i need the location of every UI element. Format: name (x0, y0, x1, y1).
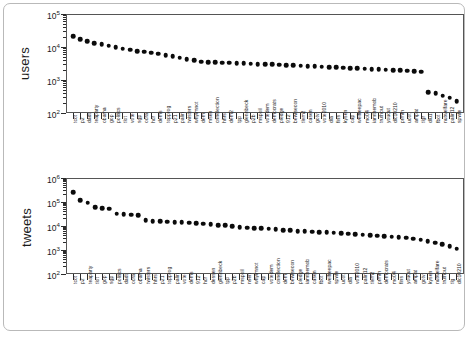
x-tick-label: twisters (145, 267, 151, 284)
x-tick-label: spwfe (333, 271, 339, 284)
x-tick-label: tpp (224, 277, 230, 284)
x-tick-label: dem (282, 274, 288, 284)
data-point (284, 63, 289, 68)
data-point (213, 60, 218, 65)
x-tick-label: hhrs (152, 274, 158, 284)
y-minor-tick (63, 231, 66, 232)
data-point (331, 231, 336, 236)
y-minor-tick (63, 203, 66, 204)
x-tick-label: ucot (406, 113, 412, 123)
y-minor-tick (63, 93, 66, 94)
data-point (440, 242, 445, 247)
x-tick-label: mspoil (257, 108, 263, 123)
data-point (248, 61, 253, 66)
data-point (389, 234, 394, 239)
data-point (194, 221, 199, 226)
y-minor-tick (63, 229, 66, 230)
data-point (384, 67, 389, 72)
data-point (71, 34, 76, 39)
y-tick-label: 104 (6, 42, 60, 54)
data-point (199, 59, 204, 64)
data-point (266, 227, 271, 232)
chart-panel-users: users 102103104105 tcotp2dadtteapartyoba… (0, 4, 474, 170)
data-point (151, 219, 156, 224)
y-minor-tick (63, 70, 66, 71)
y-minor-tick (63, 179, 66, 180)
plot-area-tweets (66, 178, 464, 274)
data-point (346, 231, 351, 236)
x-tick-label: youcut (405, 269, 411, 284)
data-point (353, 232, 358, 237)
y-minor-tick (63, 204, 66, 205)
x-tick-label: gop (108, 115, 114, 124)
x-tick-label: truthout (378, 106, 384, 123)
x-tick-label: msen (207, 111, 213, 123)
y-minor-tick (63, 253, 66, 254)
data-point (234, 61, 239, 66)
x-tick-label: iamthemob (304, 259, 310, 284)
x-tick-label: mo04 (364, 110, 370, 123)
data-point (334, 65, 339, 70)
x-tick-label: dems (157, 111, 163, 123)
y-minor-tick (63, 57, 66, 58)
x-tick-label: ucot (340, 274, 346, 284)
data-point (341, 65, 346, 70)
x-tick-label: iamthemob (371, 98, 377, 123)
y-minor-tick (63, 259, 66, 260)
data-point (216, 223, 221, 228)
data-point (375, 233, 380, 238)
x-tick-label: topprog (166, 267, 172, 284)
data-point (368, 233, 373, 238)
data-point (291, 63, 296, 68)
y-minor-tick (63, 97, 66, 98)
data-point (418, 237, 423, 242)
x-tick-label: glennbeck (217, 261, 223, 284)
data-point (85, 39, 90, 44)
data-point (327, 65, 332, 70)
x-tick-label: whyimnot (193, 101, 199, 123)
x-tick-label: fins (398, 276, 404, 284)
y-minor-tick (63, 180, 66, 181)
data-point (455, 99, 460, 104)
x-tick-label: democrats (383, 260, 389, 284)
x-tick-label: palin (179, 112, 185, 123)
y-major-tick (61, 113, 66, 114)
x-tick-label: tlg (449, 279, 455, 284)
data-point (426, 90, 431, 95)
x-tick-label: dadt (86, 113, 92, 123)
x-tick-label: 912 (285, 115, 291, 124)
x-tick-label: kysen (342, 110, 348, 123)
data-point (241, 61, 246, 66)
y-minor-tick (63, 52, 66, 53)
x-tick-label: tlot (122, 116, 128, 123)
x-tick-label: votedem (264, 103, 270, 123)
data-point (136, 213, 141, 218)
data-point (324, 230, 329, 235)
data-point (208, 222, 213, 227)
data-point (412, 69, 417, 74)
y-minor-tick (63, 214, 66, 215)
x-tick-label: tlem2 (369, 272, 375, 284)
data-point (382, 234, 387, 239)
data-point (447, 95, 452, 100)
x-tick-label: vote2010 (321, 102, 327, 123)
x-tick-label: truthout (441, 267, 447, 284)
x-tick-label: mspoil (239, 269, 245, 284)
y-minor-tick (63, 190, 66, 191)
data-point (142, 49, 147, 54)
x-tick-label: gotv (420, 274, 426, 284)
x-tick-label: dlu1 (427, 113, 433, 123)
x-tick-label: tcot (72, 276, 78, 284)
x-tick-label: obama (101, 107, 107, 123)
y-tick-label: 105 (6, 9, 60, 21)
x-tick-label: spwfe (456, 110, 462, 123)
y-minor-tick (63, 85, 66, 86)
x-tick-label: tlot (94, 277, 100, 284)
data-point (187, 221, 192, 226)
x-tick-label: welfreepac (326, 259, 332, 284)
y-minor-tick (63, 87, 66, 88)
x-tick-label: cnnelection (214, 97, 220, 123)
x-tick-label: casen (307, 109, 313, 123)
data-point (312, 64, 317, 69)
y-minor-tick (63, 252, 66, 253)
